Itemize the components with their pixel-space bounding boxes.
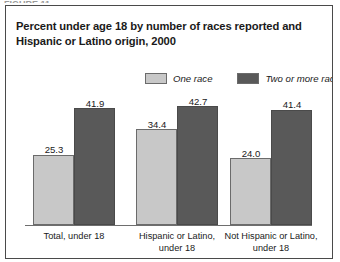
category-label-total-under-18: Total, under 18 [19,230,129,242]
category-label-line: Total, under 18 [19,230,129,242]
category-label-not-hispanic-or-latino-under-18: Not Hispanic or Latino, under 18 [216,230,326,254]
bar-group-total-under-18 [33,45,115,225]
bar-value-total-under-18-one-race: 25.3 [31,144,77,155]
bar-hispanic-or-latino-under-18-one-race [136,129,177,225]
bar-total-under-18-one-race [33,155,74,226]
x-axis-line [25,225,312,226]
bar-value-not-hispanic-or-latino-under-18-one-race: 24.0 [228,148,274,159]
bar-total-under-18-two-or-more-races [74,108,115,225]
bar-value-not-hispanic-or-latino-under-18-two-or-more-races: 41.4 [269,99,315,110]
category-label-line: under 18 [216,242,326,254]
bar-group-not-hispanic-or-latino-under-18 [230,45,312,225]
bar-value-hispanic-or-latino-under-18-two-or-more-races: 42.7 [175,96,221,107]
bar-not-hispanic-or-latino-under-18-two-or-more-races [271,110,312,225]
figure-frame: Percent under age 18 by number of races … [5,5,333,259]
bar-group-hispanic-or-latino-under-18 [136,45,218,225]
category-label-line: Not Hispanic or Latino, [216,230,326,242]
bar-value-total-under-18-two-or-more-races: 41.9 [72,98,118,109]
clipped-figure-caption: FIGURE 11. [4,0,74,3]
bar-hispanic-or-latino-under-18-two-or-more-races [177,106,218,225]
plot-area: 25.3 41.9 Total, under 18 34.4 42.7 Hisp… [6,6,333,259]
bar-not-hispanic-or-latino-under-18-one-race [230,158,271,225]
bar-value-hispanic-or-latino-under-18-one-race: 34.4 [134,119,180,130]
